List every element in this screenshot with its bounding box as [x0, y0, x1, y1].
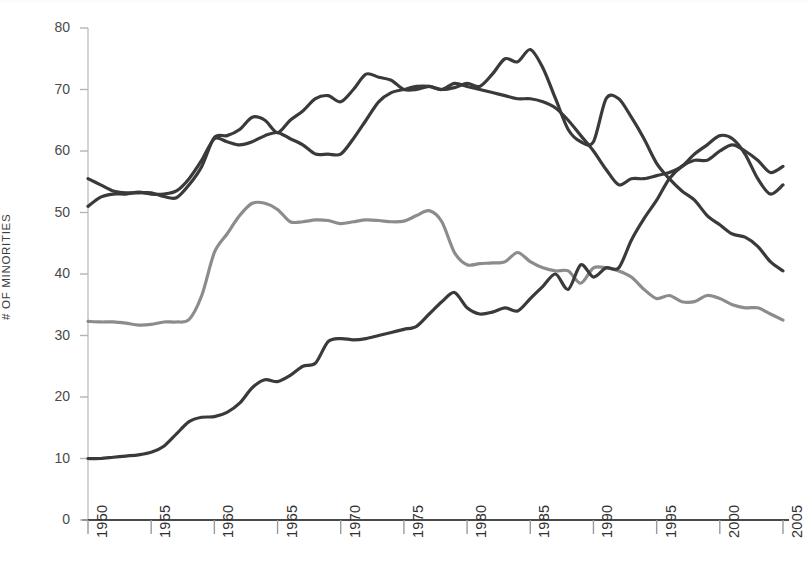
- x-tick-label: 1970: [347, 505, 363, 538]
- series-line-series-dark-upper: [88, 49, 783, 270]
- y-axis-title: # OF MINORITIES: [0, 100, 12, 320]
- y-tick-label: 20: [26, 388, 70, 404]
- plot-area: [0, 0, 809, 584]
- y-tick-label: 40: [26, 265, 70, 281]
- x-tick-label: 2000: [726, 505, 742, 538]
- line-chart: # OF MINORITIES 01020304050607080 195019…: [0, 0, 809, 584]
- x-tick-label: 1995: [663, 505, 679, 538]
- y-tick-label: 30: [26, 327, 70, 343]
- y-tick-label: 10: [26, 450, 70, 466]
- x-tick-label: 1960: [220, 505, 236, 538]
- y-tick-label: 0: [26, 511, 70, 527]
- title-strip: [0, 0, 809, 3]
- y-tick-label: 50: [26, 204, 70, 220]
- x-tick-label: 1975: [410, 505, 426, 538]
- x-tick-label: 2005: [789, 505, 805, 538]
- y-tick-label: 80: [26, 19, 70, 35]
- x-tick-label: 1965: [284, 505, 300, 538]
- y-tick-label: 70: [26, 81, 70, 97]
- x-tick-label: 1955: [157, 505, 173, 538]
- axes: [80, 28, 789, 534]
- series-lines: [88, 49, 783, 458]
- x-tick-label: 1980: [473, 505, 489, 538]
- y-tick-label: 60: [26, 142, 70, 158]
- x-tick-label: 1985: [536, 505, 552, 538]
- x-tick-label: 1990: [599, 505, 615, 538]
- x-tick-label: 1950: [94, 505, 110, 538]
